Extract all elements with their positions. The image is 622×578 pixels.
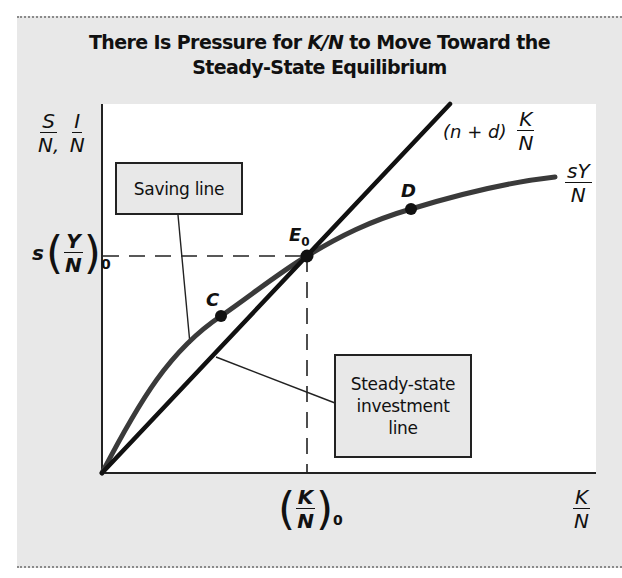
x-axis-label: K N [572, 486, 591, 533]
point-d-label: D [401, 180, 416, 201]
y-label-saving: S N, [36, 110, 61, 157]
investment-line-callout: Steady-state investment line [334, 354, 472, 458]
y-axis-label: S N, I N [36, 110, 87, 157]
saving-line-callout: Saving line [115, 162, 243, 215]
y-tick-steady-saving: s ( Y N ) 0 [32, 228, 111, 278]
investment-leader-line [216, 357, 335, 403]
point-e0 [301, 250, 314, 263]
point-d [405, 203, 417, 215]
point-e0-label: E0 [289, 224, 310, 249]
investment-line-label: (n + d) K N [443, 108, 535, 155]
saving-curve [102, 177, 555, 473]
saving-leader-line [178, 215, 190, 344]
x-tick-steady-capital: ( K N ) 0 [278, 484, 343, 534]
y-label-investment: I N [68, 110, 87, 157]
point-c [215, 310, 227, 322]
saving-curve-label: sY N [565, 160, 592, 207]
point-c-label: C [206, 289, 219, 310]
